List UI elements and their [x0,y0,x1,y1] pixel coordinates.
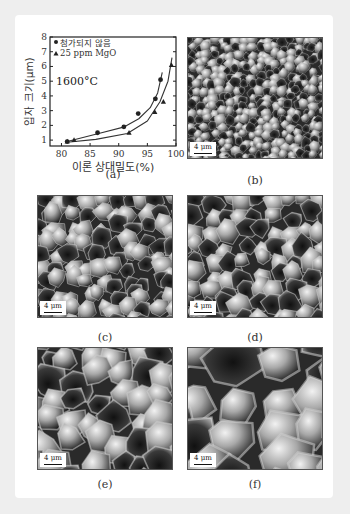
scale-bar-e: 4 μm [40,453,66,467]
caption-e: (e) [85,478,125,491]
micrograph-f: 4 μm [187,347,323,470]
data-point-undoped [153,96,158,101]
y-tick-label: 7 [41,47,47,57]
x-tick-label: 80 [56,149,68,159]
caption-f: (f) [235,478,275,491]
data-point-mgo [161,99,166,104]
data-point-undoped [121,124,126,129]
x-tick-label: 100 [167,149,184,159]
x-tick-label: 90 [113,149,125,159]
caption-b: (b) [235,174,275,187]
y-tick-label: 6 [41,61,47,71]
y-tick-label: 5 [41,76,47,86]
scale-bar-b: 4 μm [190,142,216,156]
micrograph-e: 4 μm [37,347,173,470]
legend-label-mgo: 25 ppm MgO [60,48,116,58]
micrograph-b-texture [188,38,322,158]
scale-bar-c: 4 μm [40,301,66,315]
y-tick-label: 4 [41,91,47,101]
x-tick-label: 95 [142,149,154,159]
data-point-undoped [136,111,141,116]
legend-triangle-icon [54,51,59,56]
data-point-mgo [169,62,174,67]
y-tick-label: 8 [41,32,47,42]
y-tick-label: 3 [41,106,47,116]
micrograph-e-texture [38,348,172,469]
micrograph-d-texture [188,196,322,317]
y-tick-label: 2 [41,120,47,130]
legend-circle-icon [54,40,58,44]
micrograph-c: 4 μm [37,195,173,318]
temperature-annotation: 1600°C [56,75,98,88]
caption-c: (c) [85,331,125,344]
micrograph-c-texture [38,196,172,317]
scale-bar-d: 4 μm [190,301,216,315]
legend-label-undoped: 첨가되지 않음 [60,38,111,48]
y-axis-label: 입자 크기(μm) [23,57,35,125]
caption-a: (a) [93,168,133,181]
data-point-undoped [158,77,163,82]
y-tick-label: 1 [41,135,47,145]
data-point-undoped [95,130,100,135]
grain-size-chart: 1234567880859095100이론 상대밀도(%)입자 크기(μm)16… [15,15,185,190]
micrograph-f-texture [188,348,322,469]
scale-bar-f: 4 μm [190,453,216,467]
caption-d: (d) [235,331,275,344]
micrograph-d: 4 μm [187,195,323,318]
x-tick-label: 85 [84,149,96,159]
micrograph-b: 4 μm [187,37,323,159]
